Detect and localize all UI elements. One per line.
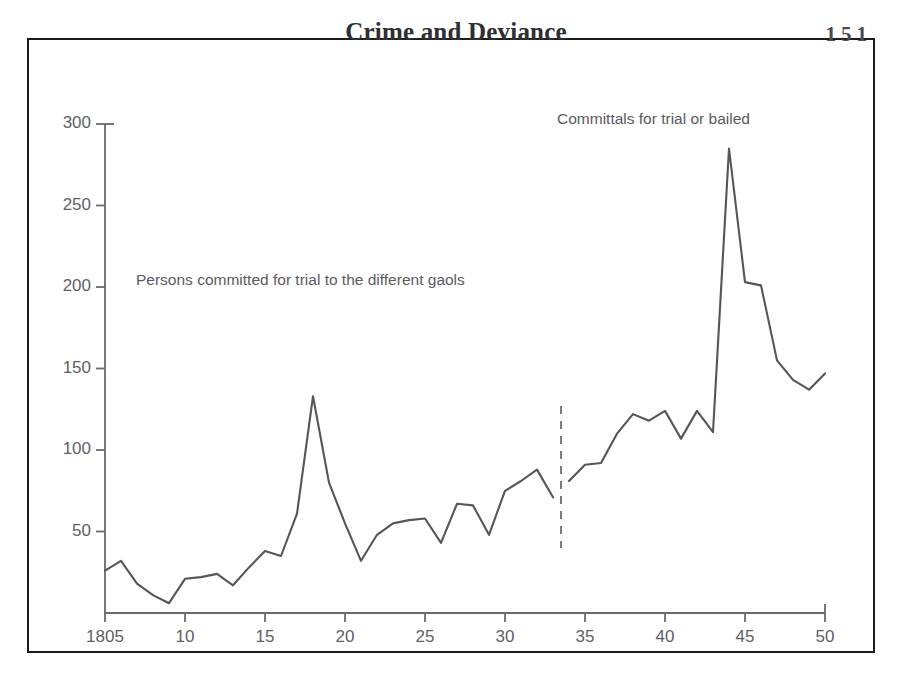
y-tick-label: 200 (35, 276, 91, 296)
x-tick-label: 10 (150, 627, 220, 647)
y-tick-label: 300 (35, 113, 91, 133)
x-tick-label: 20 (310, 627, 380, 647)
x-tick-label: 1805 (70, 627, 140, 647)
y-tick-label: 50 (35, 521, 91, 541)
x-tick-label: 25 (390, 627, 460, 647)
page-number: 151 (826, 22, 873, 47)
annotation-persons-committed: Persons committed for trial to the diffe… (136, 271, 465, 289)
figure-page: Crime and Deviance 151 Persons committed… (0, 0, 912, 682)
x-tick-label: 30 (470, 627, 540, 647)
x-tick-label: 40 (630, 627, 700, 647)
annotation-committals: Committals for trial or bailed (557, 110, 750, 128)
figure-frame (27, 38, 875, 653)
x-tick-label: 35 (550, 627, 620, 647)
x-tick-label: 15 (230, 627, 300, 647)
x-tick-label: 45 (710, 627, 780, 647)
y-tick-label: 150 (35, 358, 91, 378)
x-tick-label: 50 (790, 627, 860, 647)
y-tick-label: 250 (35, 195, 91, 215)
page-title: Crime and Deviance (0, 18, 912, 46)
y-tick-label: 100 (35, 439, 91, 459)
